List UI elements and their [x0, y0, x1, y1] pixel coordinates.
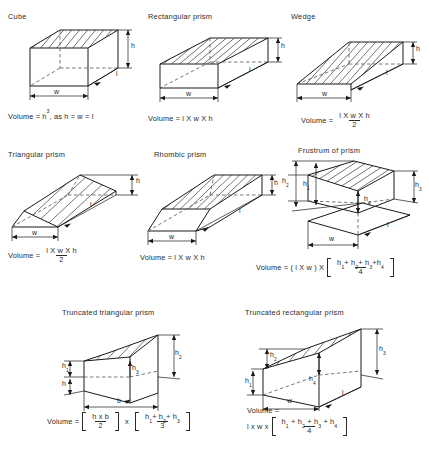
wedge-formula-numerator: l X w X h [336, 112, 373, 120]
rectangular-prism-figure: h w l [148, 26, 288, 108]
bracket-right [343, 417, 347, 436]
frustrum-figure: h2 h1 h3 h4 w l [268, 159, 429, 259]
triangular-prism-svg [8, 165, 148, 245]
frustrum-formula-lead: Volume = ( l X w ) X [256, 263, 324, 272]
truncated-triangular-operator: x [122, 417, 132, 426]
rectangular-prism-svg [148, 26, 288, 108]
panel-title-rhombic-prism: Rhombic prism [140, 150, 280, 159]
triangular-prism-hatching [0, 159, 120, 243]
wedge-label-l: l [386, 69, 388, 76]
panel-title-rectangular-prism: Rectangular prism [148, 12, 288, 21]
frustrum-label-l: l [387, 221, 389, 228]
truncated-rectangular-bracket: h1 + h2 + h3 + h4 4 [272, 417, 348, 436]
rhombic-prism-svg [140, 165, 280, 249]
panel-title-truncated-rectangular-prism: Truncated rectangular prism [245, 308, 410, 317]
rectangular-prism-formula: Volume = l X w X h [148, 114, 288, 123]
truncated-rectangular-formula-body-row: l x w x h1 + h2 + h3 + h4 4 [247, 417, 348, 436]
truncated-triangular-second-numerator: h1+ h2+ h3 [142, 413, 183, 421]
frustrum-formula-numerator: h1+ h2+ h3+h4 [334, 259, 387, 267]
truncated-triangular-label-b: b [117, 397, 121, 404]
rhombic-prism-formula-lead: Volume = [140, 253, 172, 262]
wedge-label-w: w [322, 90, 327, 97]
wedge-formula-lead: Volume = [301, 116, 333, 125]
cube-label-l: l [116, 70, 118, 77]
cube-svg [8, 26, 143, 106]
triangular-prism-formula: Volume = l X w X h 2 [8, 247, 148, 264]
truncated-rectangular-label-w: w [287, 397, 292, 404]
panel-triangular-prism: Triangular prism [8, 150, 148, 264]
truncated-rectangular-label-h2: h2 [270, 351, 277, 358]
triangular-prism-formula-denominator: 2 [56, 255, 66, 264]
rectangular-prism-label-h: h [281, 42, 285, 49]
truncated-rectangular-label-l: l [342, 389, 344, 396]
panel-cube: Cube [8, 12, 143, 121]
triangular-prism-formula-numerator: l X w X h [43, 247, 80, 255]
wedge-svg [291, 26, 429, 108]
panel-rhombic-prism: Rhombic prism [140, 150, 280, 262]
truncated-rectangular-formula-body: l x w x [247, 422, 269, 431]
rectangular-prism-label-l: l [249, 66, 251, 73]
rhombic-prism-label-w: w [169, 233, 174, 240]
truncated-triangular-figure: h2 h1 h h3 b [62, 331, 212, 415]
rectangular-prism-formula-body: l X w X h [182, 114, 213, 123]
truncated-triangular-bracket-2: h1+ h2+ h3 3 [135, 412, 190, 431]
truncated-rectangular-label-h1: h1 [245, 377, 252, 384]
cube-formula: Volume = h3, as h = w = l [8, 112, 143, 121]
truncated-rectangular-formula-lead: Volume = [247, 406, 348, 415]
truncated-triangular-formula-lead: Volume = [47, 417, 79, 426]
truncated-triangular-formula: Volume = h x b 2 x h1+ h2+ h3 3 [47, 412, 191, 431]
cube-figure: h w l [8, 26, 143, 106]
frustrum-label-h4: h4 [364, 195, 371, 202]
panel-truncated-rectangular-prism: Truncated rectangular prism [245, 308, 410, 413]
truncated-rectangular-label-h3: h3 [379, 345, 386, 352]
truncated-rectangular-label-h4: h4 [309, 375, 316, 382]
triangular-prism-label-l: l [90, 201, 92, 208]
panel-wedge: Wedge [291, 12, 429, 129]
rhombic-prism-figure: h w l [140, 165, 280, 249]
truncated-rectangular-figure: h3 h2 h1 h4 w l [245, 327, 410, 413]
truncated-rectangular-formula: Volume = l x w x h1 + h2 + h3 + h4 4 [247, 406, 348, 436]
truncated-triangular-label-h1: h1 [62, 362, 69, 369]
wedge-formula: Volume = l X w X h 2 [291, 112, 429, 129]
bracket-right [115, 412, 119, 431]
truncated-triangular-label-h: h [62, 380, 66, 387]
frustrum-formula-bracket: h1+ h2+ h3+h4 4 [327, 258, 394, 277]
bracket-right [390, 258, 394, 277]
rectangular-prism-label-w: w [186, 90, 191, 97]
truncated-triangular-first-numerator: h x b [89, 413, 112, 421]
triangular-prism-formula-fraction: l X w X h 2 [43, 247, 80, 264]
panel-title-triangular-prism: Triangular prism [8, 150, 148, 159]
cube-formula-base: h [42, 112, 46, 121]
truncated-triangular-label-h3: h3 [132, 364, 139, 371]
truncated-rectangular-svg [245, 327, 410, 413]
triangular-prism-figure: h w l [8, 165, 148, 245]
cube-label-w: w [54, 88, 59, 95]
frustrum-formula-fraction: h1+ h2+ h3+h4 4 [334, 259, 387, 276]
panel-title-wedge: Wedge [291, 12, 429, 21]
rectangular-prism-formula-lead: Volume = [148, 114, 180, 123]
truncated-triangular-bracket-1: h x b 2 [82, 412, 119, 431]
panel-title-truncated-triangular-prism: Truncated triangular prism [62, 308, 212, 317]
frustrum-label-h2: h2 [282, 177, 289, 184]
frustrum-label-h3: h3 [415, 181, 422, 188]
truncated-rectangular-denominator: 4 [304, 426, 314, 435]
frustrum-label-w: w [329, 235, 334, 242]
figure-sheet: Cube [0, 0, 429, 456]
truncated-triangular-first-denominator: 2 [95, 421, 105, 430]
cube-label-h: h [131, 42, 135, 49]
cube-formula-tail: , as h = w = l [49, 112, 93, 121]
frustrum-formula: Volume = ( l X w ) X h1+ h2+ h3+h4 4 [256, 258, 395, 277]
truncated-rectangular-numerator: h1 + h2 + h3 + h4 [279, 418, 341, 426]
triangular-prism-label-w: w [32, 229, 37, 236]
wedge-formula-denominator: 2 [349, 120, 359, 129]
wedge-label-h: h [416, 45, 420, 52]
panel-truncated-triangular-prism: Truncated triangular prism [62, 308, 212, 415]
panel-rectangular-prism: Rectangular prism [148, 12, 288, 123]
triangular-prism-formula-lead: Volume = [8, 251, 40, 260]
rhombic-prism-formula-body: l X w X h [174, 253, 205, 262]
frustrum-label-h1: h1 [303, 180, 310, 187]
cube-formula-lead: Volume = [8, 112, 40, 121]
panel-title-cube: Cube [8, 12, 143, 21]
rhombic-prism-label-l: l [239, 207, 241, 214]
frustrum-svg [268, 159, 429, 259]
